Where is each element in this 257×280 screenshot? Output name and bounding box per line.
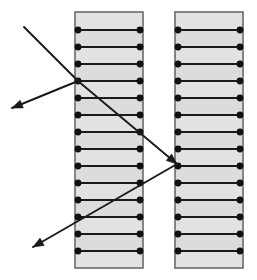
interface-node (137, 214, 144, 221)
interface-node (137, 231, 144, 238)
layer-band (175, 30, 243, 47)
layer-band (75, 81, 143, 98)
interface-node (175, 248, 182, 255)
interface-node (237, 129, 244, 136)
layer-band (175, 183, 243, 200)
interface-node (75, 95, 82, 102)
right-stack (175, 12, 244, 268)
interface-node (75, 231, 82, 238)
interface-node (175, 44, 182, 51)
interface-node (75, 61, 82, 68)
interface-node (175, 112, 182, 119)
interface-node (175, 197, 182, 204)
layer-band (175, 251, 243, 268)
interface-node (237, 197, 244, 204)
ray-diagram-figure (0, 0, 257, 280)
interface-node (137, 78, 144, 85)
interface-node (75, 27, 82, 34)
interface-node (175, 146, 182, 153)
interface-node (237, 248, 244, 255)
interface-node (175, 231, 182, 238)
interface-node (137, 27, 144, 34)
interface-node (175, 78, 182, 85)
interface-node (237, 146, 244, 153)
interface-node (175, 214, 182, 221)
interface-node (237, 214, 244, 221)
layer-band (75, 183, 143, 200)
layer-band (75, 12, 143, 30)
layer-band (175, 200, 243, 217)
layer-band (175, 132, 243, 149)
interface-node (175, 95, 182, 102)
interface-node (237, 163, 244, 170)
interface-node (75, 197, 82, 204)
interface-node (137, 95, 144, 102)
layer-band (175, 64, 243, 81)
layer-band (75, 166, 143, 183)
layer-band (175, 81, 243, 98)
interface-node (175, 129, 182, 136)
layer-band (75, 47, 143, 64)
interface-node (137, 146, 144, 153)
interface-node (75, 146, 82, 153)
layer-band (175, 115, 243, 132)
interface-node (237, 112, 244, 119)
interface-node (75, 248, 82, 255)
interface-node (237, 78, 244, 85)
interface-node (75, 44, 82, 51)
interface-node (75, 180, 82, 187)
interface-node (75, 112, 82, 119)
layer-band (75, 217, 143, 234)
interface-node (175, 27, 182, 34)
interface-node (137, 44, 144, 51)
interface-node (237, 231, 244, 238)
layer-band (175, 166, 243, 183)
interface-node (137, 197, 144, 204)
interface-node (75, 163, 82, 170)
interface-node (137, 112, 144, 119)
interface-node (237, 61, 244, 68)
interface-node (137, 248, 144, 255)
layer-band (75, 149, 143, 166)
left-stack (75, 12, 144, 268)
interface-node (237, 180, 244, 187)
layer-band (175, 234, 243, 251)
layer-band (75, 115, 143, 132)
interface-node (137, 61, 144, 68)
layer-band (175, 217, 243, 234)
interface-node (175, 61, 182, 68)
layer-band (175, 12, 243, 30)
layer-band (75, 251, 143, 268)
layer-band (175, 98, 243, 115)
multilayer-ray-diagram-svg (0, 0, 257, 280)
layer-band (175, 149, 243, 166)
layer-band (75, 64, 143, 81)
layer-band (75, 132, 143, 149)
interface-node (237, 27, 244, 34)
layer-band (175, 47, 243, 64)
layer-band (75, 234, 143, 251)
layer-band (75, 30, 143, 47)
interface-node (237, 95, 244, 102)
interface-node (137, 163, 144, 170)
interface-node (175, 180, 182, 187)
interface-node (237, 44, 244, 51)
interface-node (75, 129, 82, 136)
